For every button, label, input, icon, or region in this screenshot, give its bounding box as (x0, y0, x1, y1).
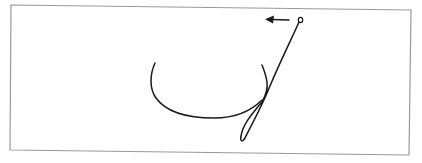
drawing-canvas (0, 0, 422, 163)
frame-border (10, 5, 411, 155)
direction-arrow-icon (265, 16, 289, 24)
u-bowl-stroke (151, 63, 262, 118)
cursive-stroke (241, 22, 299, 141)
